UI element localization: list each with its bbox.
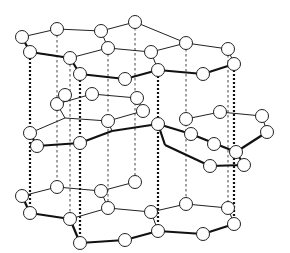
carbon-atom xyxy=(137,105,150,118)
carbon-atom xyxy=(129,176,142,189)
carbon-atom xyxy=(16,31,29,44)
carbon-atom xyxy=(197,228,210,241)
front-bond xyxy=(165,145,210,166)
carbon-atom xyxy=(95,185,108,198)
carbon-atom xyxy=(86,88,99,101)
carbon-atom xyxy=(74,237,87,250)
carbon-atom xyxy=(31,140,44,153)
back-bond xyxy=(135,22,186,43)
carbon-atom xyxy=(222,43,235,56)
carbon-atom xyxy=(204,160,217,173)
carbon-atom xyxy=(228,58,241,71)
carbon-atom xyxy=(102,115,115,128)
carbon-atom xyxy=(145,46,158,59)
carbon-atom xyxy=(74,137,87,150)
carbon-atom xyxy=(24,46,37,59)
carbon-atom xyxy=(64,52,77,65)
carbon-atom xyxy=(59,89,72,102)
carbon-atom xyxy=(51,23,64,36)
carbon-atom xyxy=(131,92,144,105)
carbon-atom xyxy=(238,159,251,172)
carbon-atom xyxy=(152,64,165,77)
carbon-atom xyxy=(261,126,274,139)
carbon-atom xyxy=(129,16,142,29)
carbon-atom xyxy=(208,138,221,151)
carbon-atom xyxy=(24,127,37,140)
carbon-atom xyxy=(180,198,193,211)
carbon-atom xyxy=(102,202,115,215)
carbon-atom xyxy=(230,146,243,159)
carbon-atom xyxy=(222,202,235,215)
carbon-atom xyxy=(119,73,132,86)
carbon-atom xyxy=(102,42,115,55)
carbon-atom xyxy=(214,106,227,119)
carbon-atom xyxy=(95,25,108,38)
carbon-atom xyxy=(51,181,64,194)
carbon-atom xyxy=(16,190,29,203)
carbon-atom xyxy=(64,213,77,226)
carbon-atom xyxy=(24,207,37,220)
graphite-lattice-diagram xyxy=(0,0,290,253)
carbon-atom xyxy=(180,113,193,126)
carbon-atom xyxy=(74,68,87,81)
carbon-atom xyxy=(145,206,158,219)
carbon-atom xyxy=(185,128,198,141)
carbon-atom xyxy=(119,234,132,247)
carbon-atom xyxy=(228,218,241,231)
carbon-atom xyxy=(180,37,193,50)
carbon-atom xyxy=(256,110,269,123)
carbon-atom xyxy=(152,118,165,131)
carbon-atom xyxy=(197,68,210,81)
carbon-atom xyxy=(152,225,165,238)
